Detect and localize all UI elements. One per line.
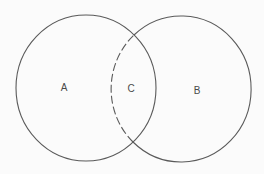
label-intersection-c: C xyxy=(127,84,134,94)
label-set-b: B xyxy=(194,86,201,96)
set-b-circle-solid-arc xyxy=(133,16,251,162)
label-set-a: A xyxy=(61,83,68,93)
set-a-circle xyxy=(16,15,156,161)
